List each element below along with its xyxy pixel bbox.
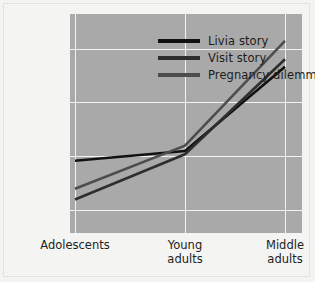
x-axis-tick-label: Middleadults <box>239 239 315 266</box>
legend-swatch-visit-story <box>158 56 200 60</box>
legend: Livia story Visit story Pregnancy dilemm… <box>158 32 315 83</box>
legend-label-visit-story: Visit story <box>208 51 266 65</box>
x-axis-tick-label-line2: adults <box>139 253 231 267</box>
x-axis-tick-label-line1: Middle <box>239 239 315 253</box>
plot-area: Livia story Visit story Pregnancy dilemm… <box>70 14 302 233</box>
x-axis-tick-label-line2: adults <box>239 253 315 267</box>
legend-label-livia-story: Livia story <box>208 34 268 48</box>
legend-label-pregnancy-dilemma: Pregnancy dilemma <box>208 68 315 82</box>
chart-screenshot: Level of reasoning (Higher score = more … <box>0 0 315 282</box>
x-axis-tick-label-line1: Young <box>139 239 231 253</box>
legend-swatch-livia-story <box>158 39 200 43</box>
legend-swatch-pregnancy-dilemma <box>158 73 200 77</box>
x-axis-tick-label-line1: Adolescents <box>29 239 121 253</box>
legend-item: Livia story <box>158 32 315 49</box>
x-axis-tick-label: Youngadults <box>139 239 231 266</box>
legend-item: Pregnancy dilemma <box>158 66 315 83</box>
x-axis-tick-label: Adolescents <box>29 239 121 253</box>
legend-item: Visit story <box>158 49 315 66</box>
